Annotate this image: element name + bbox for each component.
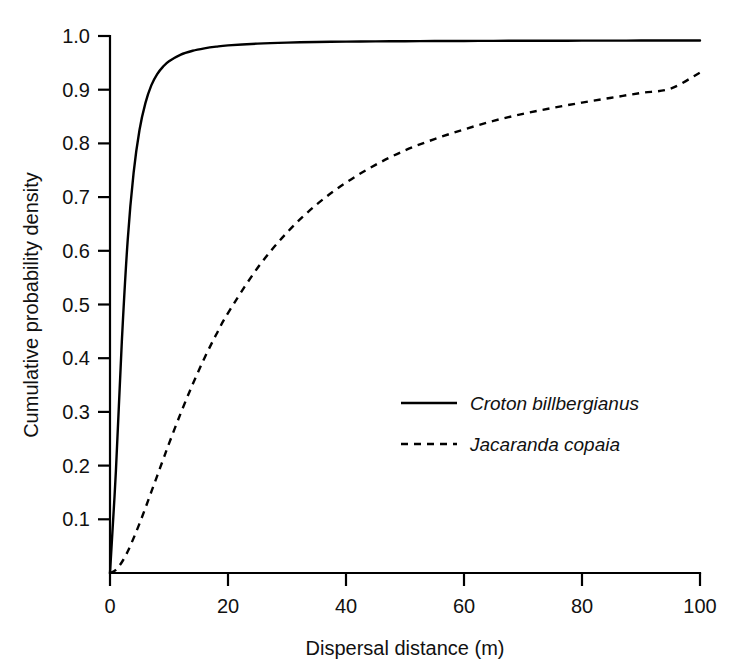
legend-entry-jacaranda-copaia: Jacaranda copaia [401, 434, 620, 455]
x-tick-label: 80 [571, 595, 593, 617]
y-tick-label: 1.0 [62, 25, 90, 47]
y-tick-label: 0.6 [62, 240, 90, 262]
y-tick-label: 0.2 [62, 455, 90, 477]
y-tick-label: 0.8 [62, 132, 90, 154]
x-tick-label: 20 [217, 595, 239, 617]
y-axis-ticks: 0.10.20.30.40.50.60.70.80.91.0 [62, 25, 110, 530]
y-tick-label: 0.7 [62, 186, 90, 208]
legend-label-croton-billbergianus: Croton billbergianus [470, 393, 639, 414]
x-axis-ticks: 020406080100 [104, 573, 716, 617]
line-chart: 0.10.20.30.40.50.60.70.80.91.0 020406080… [0, 0, 746, 672]
x-tick-label: 40 [335, 595, 357, 617]
y-tick-label: 0.9 [62, 79, 90, 101]
legend-label-jacaranda-copaia: Jacaranda copaia [469, 434, 620, 455]
x-tick-label: 0 [104, 595, 115, 617]
y-tick-label: 0.4 [62, 347, 90, 369]
figure-container: 0.10.20.30.40.50.60.70.80.91.0 020406080… [0, 0, 746, 672]
y-tick-label: 0.3 [62, 401, 90, 423]
chart-legend: Croton billbergianus Jacaranda copaia [401, 393, 639, 455]
y-axis-title: Cumulative probability density [20, 172, 42, 438]
series-line-jacaranda-copaia [110, 73, 700, 573]
series-group [110, 40, 700, 573]
axes-group [110, 36, 700, 573]
x-tick-label: 60 [453, 595, 475, 617]
x-axis-title: Dispersal distance (m) [306, 637, 505, 659]
legend-entry-croton-billbergianus: Croton billbergianus [401, 393, 639, 414]
y-tick-label: 0.5 [62, 294, 90, 316]
y-tick-label: 0.1 [62, 508, 90, 530]
x-tick-label: 100 [683, 595, 716, 617]
series-line-croton-billbergianus [110, 40, 700, 573]
